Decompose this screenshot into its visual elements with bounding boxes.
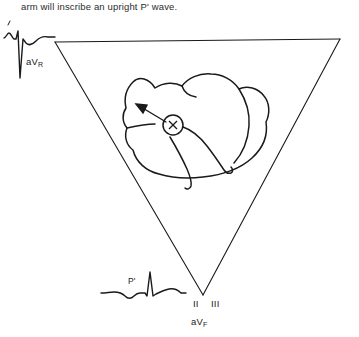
ectopic-focus-marker bbox=[163, 115, 183, 135]
heart-right-wall bbox=[234, 89, 249, 163]
label-avr-subscript: R bbox=[38, 61, 43, 68]
arrow-head bbox=[136, 104, 147, 113]
avr-p-tick bbox=[8, 21, 10, 25]
heart-left-atrium-wall bbox=[127, 124, 155, 128]
label-avf: aVF bbox=[191, 316, 208, 327]
triangle-side-top bbox=[55, 39, 340, 42]
heart-septum bbox=[183, 127, 233, 173]
p-prime-trace bbox=[101, 272, 186, 298]
label-avf-base: aV bbox=[191, 316, 203, 327]
label-avr-base: aV bbox=[26, 56, 38, 67]
heart-atrial-notch bbox=[182, 86, 196, 97]
triangle-side-right bbox=[203, 39, 340, 295]
figure-root: arm will inscribe an upright P' wave. bbox=[0, 0, 359, 337]
avr-trace bbox=[4, 21, 55, 78]
label-avr: aVR bbox=[26, 56, 43, 67]
diagram-canvas bbox=[0, 0, 359, 337]
label-avf-subscript: F bbox=[203, 321, 207, 328]
label-lead-ii: II bbox=[193, 298, 199, 309]
depolarization-arrow bbox=[136, 104, 166, 122]
heart-outline bbox=[123, 74, 269, 189]
avr-waveform bbox=[4, 31, 55, 78]
heart-left-ventricle-wall bbox=[170, 137, 191, 189]
triangle-side-left bbox=[55, 42, 203, 295]
heart-body-outline bbox=[123, 74, 269, 178]
label-lead-iii: III bbox=[211, 298, 220, 309]
einthoven-triangle bbox=[55, 39, 340, 295]
label-p-prime: P' bbox=[128, 276, 136, 286]
p-prime-waveform bbox=[101, 272, 186, 298]
